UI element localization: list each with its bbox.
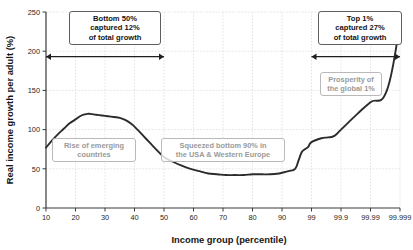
annotation-line: the global 1%	[325, 84, 377, 93]
x-tick-label: 50	[160, 213, 168, 222]
annotation-line: captured 27%	[323, 23, 397, 32]
annotation-rise-of-emerging-countries: Rise of emerging countries	[52, 138, 136, 162]
annotation-line: Squeezed bottom 90% in	[166, 141, 280, 150]
y-axis-tick-labels: 050100150200250	[28, 8, 40, 213]
annotation-squeezed-bottom-90: Squeezed bottom 90% in the USA & Western…	[161, 138, 285, 162]
annotation-line: Rise of emerging	[57, 141, 131, 150]
x-tick-label: 99.9	[334, 213, 348, 222]
x-tick-label: 80	[248, 213, 256, 222]
x-tick-label: 99	[307, 213, 315, 222]
annotation-line: of total growth	[323, 33, 397, 42]
annotation-line: Top 1%	[323, 14, 397, 23]
x-tick-label: 20	[71, 213, 79, 222]
annotation-bottom-50: Bottom 50% captured 12% of total growth	[69, 11, 161, 45]
range-arrow-head	[159, 53, 164, 59]
x-tick-label: 99.99	[361, 213, 380, 222]
x-tick-label: 40	[130, 213, 138, 222]
x-tick-label: 70	[219, 213, 227, 222]
y-axis-title: Real income growth per adult (%)	[4, 36, 15, 184]
annotation-line: captured 12%	[74, 23, 156, 32]
annotation-top-1: Top 1% captured 27% of total growth	[318, 11, 402, 45]
y-tick-label: 250	[28, 8, 40, 17]
range-arrow-head	[46, 53, 51, 59]
annotation-prosperity-global-1: Prosperity of the global 1%	[320, 72, 382, 96]
y-tick-label: 0	[36, 204, 40, 213]
x-axis-tick-labels: 1020304050607080909999.999.9999.999	[42, 213, 411, 222]
range-arrow-head	[395, 53, 400, 59]
annotation-line: Prosperity of	[325, 75, 377, 84]
y-tick-label: 100	[28, 125, 40, 134]
x-tick-label: 90	[278, 213, 286, 222]
annotation-line: the USA & Western Europe	[166, 150, 280, 159]
y-tick-label: 150	[28, 86, 40, 95]
annotation-line: Bottom 50%	[74, 14, 156, 23]
annotation-line: countries	[57, 150, 131, 159]
y-tick-label: 200	[28, 47, 40, 56]
annotation-line: of total growth	[74, 33, 156, 42]
x-tick-label: 60	[189, 213, 197, 222]
range-arrow-head	[312, 53, 317, 59]
chart-container: 050100150200250 1020304050607080909999.9…	[0, 0, 413, 250]
x-tick-label: 99.999	[389, 213, 412, 222]
x-tick-label: 30	[101, 213, 109, 222]
y-tick-label: 50	[32, 165, 40, 174]
x-tick-label: 10	[42, 213, 50, 222]
x-axis-title: Income group (percentile)	[171, 234, 286, 245]
